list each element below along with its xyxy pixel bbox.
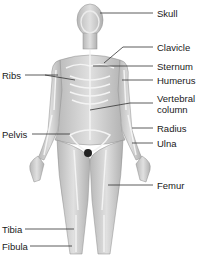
label-skull: Skull	[157, 8, 178, 19]
label-fibula: Fibula	[2, 241, 28, 252]
pelvis-shadow	[84, 149, 92, 157]
label-ribs: Ribs	[2, 70, 21, 81]
label-sternum: Sternum	[157, 61, 193, 72]
label-column: column	[157, 104, 188, 115]
label-femur: Femur	[157, 180, 184, 191]
label-clavicle: Clavicle	[157, 42, 190, 53]
label-vertebral: Vertebral	[157, 93, 195, 104]
label-pelvis: Pelvis	[2, 129, 27, 140]
label-ulna: Ulna	[157, 138, 177, 149]
label-tibia: Tibia	[2, 224, 22, 235]
label-humerus: Humerus	[157, 75, 196, 86]
label-radius: Radius	[157, 123, 187, 134]
